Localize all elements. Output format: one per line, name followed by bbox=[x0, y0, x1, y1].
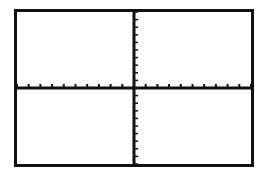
graph-axes bbox=[0, 0, 265, 178]
